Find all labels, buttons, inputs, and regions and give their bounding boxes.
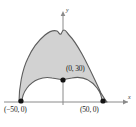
arch-apex-label: (0, 30) [66, 64, 85, 73]
left-endpoint-label: (−50, 0) [4, 105, 27, 114]
left-endpoint-dot [18, 98, 23, 103]
arch-apex-dot [60, 77, 65, 82]
x-axis-arrowhead [123, 100, 128, 105]
x-axis-label: x [127, 94, 131, 100]
right-endpoint-dot [100, 98, 105, 103]
right-endpoint-label: (50, 0) [80, 105, 99, 114]
y-axis-arrowhead [61, 11, 66, 16]
figure-container: x y (−50, 0) (50, 0) (0, 30) [0, 0, 136, 127]
y-axis-label: y [65, 7, 69, 13]
